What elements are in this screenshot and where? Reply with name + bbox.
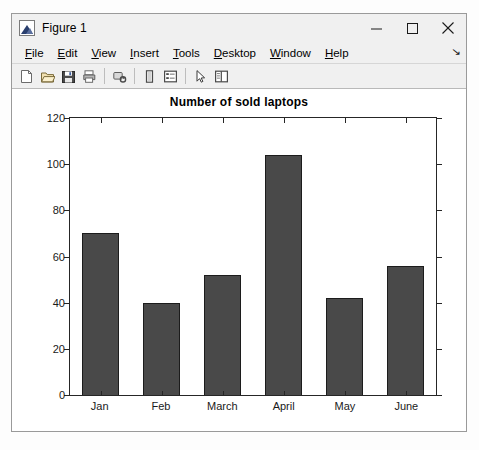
y-tick-label: 80 bbox=[53, 204, 65, 216]
chart-title: Number of sold laptops bbox=[12, 95, 466, 109]
minimize-button[interactable] bbox=[358, 14, 394, 42]
y-tick-mark-right bbox=[436, 349, 442, 350]
print-figure-icon[interactable] bbox=[79, 66, 99, 86]
y-tick-label: 40 bbox=[53, 297, 65, 309]
bar-jan[interactable] bbox=[82, 233, 120, 395]
y-tick-label: 0 bbox=[59, 389, 65, 401]
title-bar: Figure 1 bbox=[12, 14, 466, 42]
bar-may[interactable] bbox=[326, 298, 364, 395]
menu-item-file[interactable]: File bbox=[18, 47, 51, 59]
insert-legend-icon[interactable] bbox=[160, 66, 180, 86]
x-tick-mark bbox=[101, 391, 102, 396]
screenshot-root: Figure 1 File Edit View Insert Tools Des… bbox=[0, 0, 479, 450]
bar-series bbox=[70, 118, 436, 395]
x-tick-mark bbox=[162, 391, 163, 396]
y-tick-label: 60 bbox=[53, 251, 65, 263]
x-tick-label-june: June bbox=[376, 400, 437, 412]
menu-item-desktop[interactable]: Desktop bbox=[207, 47, 263, 59]
x-tick-mark-top bbox=[284, 118, 285, 123]
figure-canvas[interactable]: Number of sold laptops 020406080100120 J… bbox=[12, 89, 466, 431]
y-tick-mark-right bbox=[436, 118, 442, 119]
bar-slot bbox=[70, 118, 131, 395]
edit-plot-icon[interactable] bbox=[190, 66, 210, 86]
maximize-button[interactable] bbox=[394, 14, 430, 42]
menu-label-desktop: esktop bbox=[222, 47, 256, 59]
bar-april[interactable] bbox=[265, 155, 303, 395]
menu-item-help[interactable]: Help bbox=[318, 47, 356, 59]
menu-label-view: iew bbox=[99, 47, 116, 59]
bar-slot bbox=[253, 118, 314, 395]
bar-march[interactable] bbox=[204, 275, 242, 395]
save-figure-icon[interactable] bbox=[58, 66, 78, 86]
toolbar-separator bbox=[104, 68, 105, 84]
y-tick-label: 20 bbox=[53, 343, 65, 355]
x-tick-label-feb: Feb bbox=[130, 400, 191, 412]
menu-item-view[interactable]: View bbox=[84, 47, 123, 59]
toolbar-separator bbox=[185, 68, 186, 84]
menu-item-window[interactable]: Window bbox=[263, 47, 318, 59]
y-tick-mark-right bbox=[436, 257, 442, 258]
figure-window: Figure 1 File Edit View Insert Tools Des… bbox=[11, 13, 467, 432]
window-controls bbox=[358, 14, 466, 42]
bar-slot bbox=[375, 118, 436, 395]
close-button[interactable] bbox=[430, 14, 466, 42]
y-tick-mark-right bbox=[436, 303, 442, 304]
y-tick-label: 100 bbox=[47, 158, 65, 170]
menu-overflow-arrow-icon[interactable]: ↘ bbox=[451, 46, 461, 57]
bar-feb[interactable] bbox=[143, 303, 181, 395]
menu-item-tools[interactable]: Tools bbox=[166, 47, 207, 59]
menu-item-edit[interactable]: Edit bbox=[51, 47, 85, 59]
menu-label-file: ile bbox=[32, 47, 44, 59]
x-tick-label-march: March bbox=[192, 400, 253, 412]
y-tick-label: 120 bbox=[47, 112, 65, 124]
matlab-figure-icon bbox=[19, 20, 35, 36]
x-axis-labels: JanFebMarchAprilMayJune bbox=[69, 400, 437, 412]
menu-label-tools: ools bbox=[179, 47, 200, 59]
x-tick-mark-top bbox=[162, 118, 163, 123]
x-tick-label-jan: Jan bbox=[69, 400, 130, 412]
menu-label-edit: dit bbox=[65, 47, 77, 59]
window-title: Figure 1 bbox=[42, 21, 87, 35]
new-figure-icon[interactable] bbox=[16, 66, 36, 86]
link-plot-icon[interactable] bbox=[109, 66, 129, 86]
plot-browser-icon[interactable] bbox=[211, 66, 231, 86]
tool-bar bbox=[12, 64, 466, 89]
insert-colorbar-icon[interactable] bbox=[139, 66, 159, 86]
menu-label-window: indow bbox=[281, 47, 311, 59]
open-file-icon[interactable] bbox=[37, 66, 57, 86]
menu-label-help: elp bbox=[333, 47, 348, 59]
bar-slot bbox=[131, 118, 192, 395]
menu-bar: File Edit View Insert Tools Desktop Wind… bbox=[12, 42, 466, 64]
x-tick-mark-top bbox=[345, 118, 346, 123]
y-tick-mark-right bbox=[436, 164, 442, 165]
bar-june[interactable] bbox=[387, 266, 425, 395]
toolbar-separator bbox=[134, 68, 135, 84]
x-tick-mark-top bbox=[406, 118, 407, 123]
x-tick-mark-top bbox=[101, 118, 102, 123]
x-tick-mark-top bbox=[223, 118, 224, 123]
menu-label-insert: nsert bbox=[133, 47, 159, 59]
menu-item-insert[interactable]: Insert bbox=[123, 47, 166, 59]
x-tick-mark bbox=[406, 391, 407, 396]
plot-axes: 020406080100120 bbox=[69, 117, 437, 396]
x-tick-label-april: April bbox=[253, 400, 314, 412]
y-tick-mark-right bbox=[436, 395, 442, 396]
y-tick-mark-right bbox=[436, 210, 442, 211]
x-tick-mark bbox=[345, 391, 346, 396]
x-tick-mark bbox=[223, 391, 224, 396]
bar-slot bbox=[192, 118, 253, 395]
bar-slot bbox=[314, 118, 375, 395]
x-tick-label-may: May bbox=[314, 400, 375, 412]
x-tick-mark bbox=[284, 391, 285, 396]
